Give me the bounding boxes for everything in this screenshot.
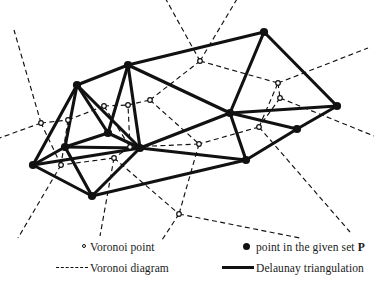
delaunay-edge	[230, 32, 264, 113]
delaunay-edge	[92, 160, 246, 196]
site-point	[73, 81, 81, 89]
voronoi-edge	[200, 61, 278, 83]
voronoi-point	[128, 145, 133, 150]
voronoi-point	[278, 96, 283, 101]
legend-item-delaunay: Delaunay triangulation	[218, 261, 364, 275]
voronoi-edge	[199, 127, 259, 144]
site-point	[226, 109, 234, 117]
voronoi-edge	[128, 100, 150, 105]
voronoi-ray	[100, 158, 114, 236]
voronoi-point	[59, 163, 64, 168]
legend-label-given-set-text: point in the given set	[256, 241, 358, 253]
site-point	[104, 129, 112, 137]
voronoi-ray	[179, 214, 300, 238]
voronoi-point	[276, 81, 281, 86]
legend: Voronoi point Voronoi diagram point in t…	[0, 240, 382, 287]
legend-label-voronoi-point: Voronoi point	[90, 240, 155, 254]
voronoi-ray	[162, 214, 179, 240]
site-point	[61, 143, 69, 151]
site-point	[293, 125, 301, 133]
site-point	[29, 161, 37, 169]
delaunay-edge	[230, 113, 246, 160]
voronoi-ray	[278, 48, 368, 83]
delaunay-edge	[65, 133, 108, 147]
voronoi-point	[39, 121, 44, 126]
delaunay-edge	[77, 65, 128, 85]
voronoi-point	[257, 125, 262, 130]
legend-label-delaunay: Delaunay triangulation	[256, 261, 364, 275]
delaunay-edge-layer	[33, 32, 337, 196]
legend-label-voronoi-diagram: Voronoi diagram	[90, 261, 169, 275]
solid-line-icon	[218, 261, 256, 275]
voronoi-point	[66, 118, 71, 123]
dashed-line-icon	[52, 261, 90, 275]
delaunay-edge	[140, 148, 246, 160]
voronoi-edge	[150, 100, 199, 144]
delaunay-edge	[128, 32, 264, 65]
legend-label-given-set: point in the given set P	[256, 240, 365, 254]
site-point-icon	[218, 240, 256, 254]
site-point	[124, 61, 132, 69]
legend-item-given-set-point: point in the given set P	[218, 240, 365, 254]
voronoi-edge	[41, 120, 68, 123]
voronoi-point	[177, 212, 182, 217]
delaunay-edge	[77, 85, 108, 133]
voronoi-point	[197, 142, 202, 147]
voronoi-point-icon	[52, 240, 90, 254]
site-point	[260, 28, 268, 36]
voronoi-ray	[200, 0, 240, 61]
site-point	[242, 156, 250, 164]
delaunay-edge	[108, 133, 140, 148]
voronoi-ray	[0, 123, 41, 140]
delaunay-edge	[230, 106, 337, 113]
site-point	[333, 102, 341, 110]
delaunay-edge	[246, 129, 297, 160]
figure-root: Voronoi point Voronoi diagram point in t…	[0, 0, 382, 287]
legend-label-given-set-symbol: P	[358, 241, 365, 253]
voronoi-point	[148, 98, 153, 103]
delaunay-edge	[108, 65, 128, 133]
legend-item-voronoi-point: Voronoi point	[52, 240, 155, 254]
legend-item-voronoi-diagram: Voronoi diagram	[52, 261, 169, 275]
site-point	[88, 192, 96, 200]
delaunay-edge	[128, 65, 230, 113]
voronoi-point	[102, 104, 107, 109]
voronoi-point	[126, 103, 131, 108]
voronoi-edge	[128, 105, 130, 147]
delaunay-edge	[264, 32, 337, 106]
voronoi-point	[198, 59, 203, 64]
voronoi-point	[112, 156, 117, 161]
site-point	[136, 144, 144, 152]
voronoi-ray	[14, 30, 41, 123]
delaunay-edge	[140, 113, 230, 148]
